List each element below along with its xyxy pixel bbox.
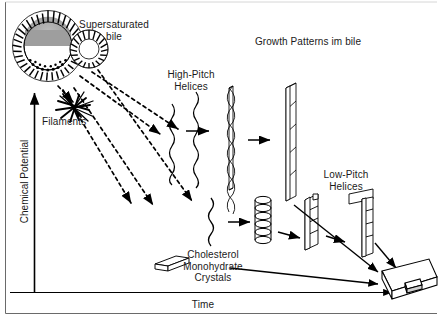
arrow-lower-2 (278, 232, 300, 238)
axis-y-label: Chemical Potential (19, 122, 30, 242)
folded-ribbon-lower (349, 189, 373, 257)
label-low-pitch-helices: Low-Pitch Helices (310, 169, 382, 192)
figure-canvas: Growth Patterns im bile Supersaturated b… (0, 0, 443, 323)
arrow-folded-to-crystal (375, 243, 396, 268)
twisted-helix-upper (227, 86, 235, 214)
wavy-filament-upper (170, 104, 175, 185)
wide-ribbon-upper (286, 83, 296, 201)
arrow-lower-3 (326, 236, 345, 242)
chart-title: Growth Patterns im bile (228, 36, 388, 48)
label-filaments: Filaments (42, 116, 112, 128)
axis-x-label: Time (178, 299, 228, 311)
wavy-filament-lower (209, 198, 214, 246)
coiled-helix-lower (255, 196, 271, 243)
crystal-plate-large (382, 259, 437, 299)
dashed-arrow-filaments (58, 86, 73, 102)
label-high-pitch-helices: High-Pitch Helices (152, 69, 230, 92)
label-supersaturated-bile: Supersaturated bile (68, 19, 160, 42)
wavy-filament-upper-2 (194, 92, 199, 188)
label-cholesterol-monohydrate-crystals: Cholesterol Monohydrate Crystals (168, 249, 258, 284)
